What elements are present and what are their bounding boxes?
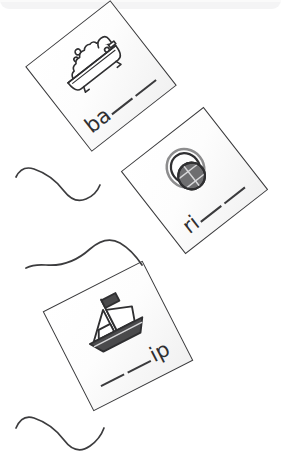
kite-card-ring[interactable]: ri bbox=[121, 107, 268, 254]
tail-bottom bbox=[16, 417, 104, 450]
kite-card-bathtub[interactable]: ba bbox=[25, 0, 177, 152]
answer-blank[interactable] bbox=[94, 361, 124, 387]
tail-top bbox=[16, 168, 100, 200]
answer-blank[interactable] bbox=[126, 68, 156, 97]
worksheet-page: ba bbox=[0, 0, 281, 460]
top-band-highlight bbox=[0, 0, 281, 2]
answer-blank[interactable] bbox=[121, 347, 151, 373]
top-band bbox=[0, 0, 281, 9]
tail-middle bbox=[26, 240, 142, 268]
kite-card-ship[interactable]: ip bbox=[43, 261, 194, 412]
answer-blank[interactable] bbox=[215, 176, 245, 205]
